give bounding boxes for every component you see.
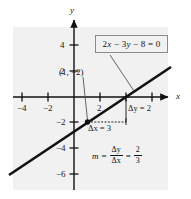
callout-leader-line (110, 55, 134, 91)
y-tick-label--4: −4 (56, 144, 66, 153)
slope-numerator-symbolic: Δy (110, 146, 123, 155)
delta-y-label: Δy = 2 (128, 104, 151, 113)
equation-text: 2x − 3y − 8 = 0 (103, 39, 161, 49)
slope-denominator-symbolic: Δx (110, 155, 123, 165)
x-tick-label-2: 2 (97, 104, 102, 113)
x-tick-label--4: −4 (17, 104, 27, 113)
figure-container: x y −4 −2 2 4 2 −2 −4 −6 2x − 3y − 8 = 0… (0, 0, 191, 199)
slope-symbolic-fraction: Δy Δx (110, 146, 123, 165)
delta-x-label: Δx = 3 (88, 124, 111, 133)
y-tick-label-4: 4 (60, 41, 65, 50)
y-axis-label: y (70, 6, 74, 15)
y-tick-label--6: −6 (56, 170, 66, 179)
slope-denominator-value: 3 (134, 155, 142, 165)
y-tick-label--2: −2 (56, 118, 66, 127)
slope-value-fraction: 2 3 (134, 146, 142, 165)
equation-callout-box: 2x − 3y − 8 = 0 (95, 35, 168, 53)
point-label: (1, −2) (59, 68, 84, 77)
slope-numerator-value: 2 (134, 146, 142, 155)
slope-formula: m = Δy Δx = 2 3 (92, 146, 142, 165)
slope-symbol: m (92, 151, 99, 161)
x-tick-label--2: −2 (43, 104, 53, 113)
point-leader-line (83, 77, 88, 120)
graph-svg (0, 0, 191, 199)
x-axis-label: x (176, 92, 180, 101)
slope-equals-1: = (102, 151, 107, 161)
slope-equals-2: = (126, 151, 131, 161)
